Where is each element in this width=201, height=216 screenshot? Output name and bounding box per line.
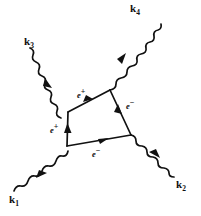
momentum-label-k4: k4 <box>130 3 140 17</box>
momentum-label-k2-sub: 2 <box>182 184 186 193</box>
momentum-label-k4-sub: 4 <box>136 8 140 17</box>
fermion-label-loop-left-charge: + <box>54 122 59 131</box>
fermion-label-loop-bottom: e− <box>92 147 100 158</box>
loop-edge-left-arrow <box>64 123 72 133</box>
photon-line-k1 <box>14 151 68 191</box>
photon-arrow-k4 <box>117 53 126 64</box>
fermion-label-loop-bottom-charge: − <box>96 146 101 155</box>
photon-arrow-k1 <box>36 170 47 178</box>
feynman-diagram-figure: k1 k2 k3 k4 e+ e− e− e+ <box>0 0 201 216</box>
loop-edge-right <box>110 90 131 135</box>
fermion-label-loop-right-charge: − <box>130 98 135 107</box>
diagram-canvas <box>0 0 201 216</box>
fermion-label-loop-top-charge: + <box>81 87 86 96</box>
photon-line-k2 <box>131 135 174 177</box>
loop-edge-bottom <box>67 135 131 146</box>
photon-line-k3 <box>30 48 61 118</box>
loop-edge-bottom-arrow <box>98 138 109 144</box>
fermion-label-loop-top: e+ <box>77 88 85 99</box>
momentum-label-k2: k2 <box>176 179 186 193</box>
loop-edge-top <box>68 90 110 112</box>
photon-wave-k4 <box>110 24 161 90</box>
momentum-label-k1: k1 <box>9 194 19 208</box>
photon-wave-k2 <box>131 135 174 177</box>
momentum-label-k3: k3 <box>24 36 34 50</box>
loop-edge-top-line <box>68 90 110 112</box>
loop-edge-left <box>64 112 72 146</box>
photon-line-k4 <box>110 24 161 90</box>
fermion-label-loop-right: e− <box>126 99 134 110</box>
momentum-label-k3-sub: 3 <box>30 41 34 50</box>
fermion-label-loop-left: e+ <box>50 123 58 134</box>
momentum-label-k1-sub: 1 <box>15 199 19 208</box>
loop-edge-right-arrow <box>114 104 122 114</box>
